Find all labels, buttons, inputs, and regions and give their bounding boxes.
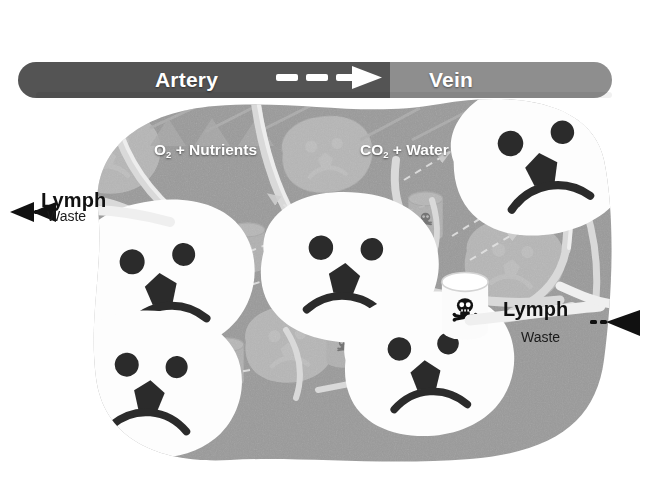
lymph-arrow-left-icon xyxy=(10,202,56,222)
tissue-diagram-svg xyxy=(0,0,648,492)
toxin-barrel-icon xyxy=(442,272,488,339)
diagram-canvas: Artery Vein O2 + Nutrients CO2 + Water L… xyxy=(0,0,648,492)
main-vessel-bar xyxy=(18,62,612,98)
